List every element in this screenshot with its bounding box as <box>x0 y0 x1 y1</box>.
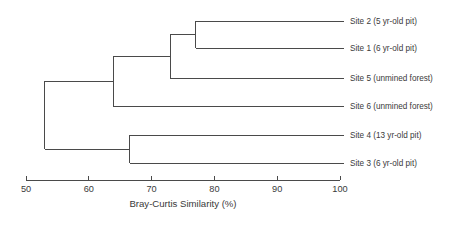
leaf-label-site2: Site 2 (5 yr-old pit) <box>350 17 417 26</box>
x-tick-label-60: 60 <box>84 184 94 194</box>
leaf-label-site4: Site 4 (13 yr-old pit) <box>350 131 422 140</box>
dendrogram-branches <box>45 21 344 163</box>
x-tick-label-90: 90 <box>272 184 282 194</box>
x-tick-label-100: 100 <box>332 184 347 194</box>
leaf-labels: Site 2 (5 yr-old pit)Site 1 (6 yr-old pi… <box>350 17 433 168</box>
leaf-label-site6: Site 6 (unmined forest) <box>350 102 433 111</box>
x-axis: 5060708090100 <box>21 176 348 194</box>
leaf-label-site3: Site 3 (6 yr-old pit) <box>350 159 417 168</box>
x-axis-title: Bray-Curtis Similarity (%) <box>129 198 236 209</box>
leaf-label-site5: Site 5 (unmined forest) <box>350 74 433 83</box>
dendrogram-plot: 5060708090100 Site 2 (5 yr-old pit)Site … <box>0 0 458 226</box>
x-tick-label-50: 50 <box>21 184 31 194</box>
leaf-label-site1: Site 1 (6 yr-old pit) <box>350 44 417 53</box>
x-tick-label-80: 80 <box>209 184 219 194</box>
x-tick-label-70: 70 <box>146 184 156 194</box>
dendrogram-figure: 5060708090100 Site 2 (5 yr-old pit)Site … <box>0 0 458 226</box>
